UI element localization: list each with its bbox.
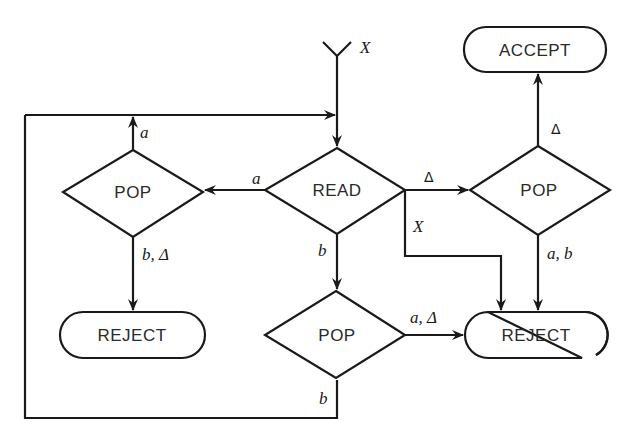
start-node: X bbox=[323, 38, 371, 57]
edge-label-pop-left-b-delta: b, Δ bbox=[142, 245, 169, 264]
edge-label-read-a: a bbox=[252, 169, 261, 188]
pop-right-label: POP bbox=[520, 181, 557, 200]
pop-left-label: POP bbox=[114, 183, 151, 202]
node-read: READ bbox=[265, 148, 405, 234]
read-label: READ bbox=[312, 181, 361, 200]
reject-right-label: REJECT bbox=[501, 326, 570, 345]
edge-label-pop-right-a-b: a, b bbox=[547, 244, 573, 263]
edge-label-read-delta: Δ bbox=[424, 169, 434, 185]
node-pop-right: POP bbox=[470, 146, 610, 235]
node-pop-left: POP bbox=[63, 150, 203, 237]
pop-bottom-label: POP bbox=[318, 326, 355, 345]
pda-flowchart: X READ a POP a b, Δ REJECT Δ X POP Δ bbox=[0, 0, 637, 441]
node-pop-bottom: POP bbox=[265, 291, 405, 378]
edge-label-pop-bottom-a-delta: a, Δ bbox=[410, 308, 437, 327]
edge-label-pop-right-delta: Δ bbox=[551, 121, 561, 137]
node-accept: ACCEPT bbox=[464, 27, 606, 72]
edge-label-read-b: b bbox=[318, 241, 327, 260]
node-reject-left: REJECT bbox=[60, 312, 205, 358]
start-fork-icon bbox=[323, 42, 351, 56]
accept-label: ACCEPT bbox=[499, 41, 571, 60]
edge-label-read-x: X bbox=[412, 217, 424, 236]
edge-read-to-reject-right bbox=[405, 190, 501, 310]
edge-label-pop-left-a: a bbox=[140, 123, 149, 142]
start-label: X bbox=[359, 38, 371, 57]
node-reject-right: REJECT bbox=[465, 312, 608, 358]
edge-loop-left-bottom bbox=[25, 115, 337, 418]
edge-label-pop-bottom-b: b bbox=[319, 389, 328, 408]
reject-left-label: REJECT bbox=[97, 326, 166, 345]
